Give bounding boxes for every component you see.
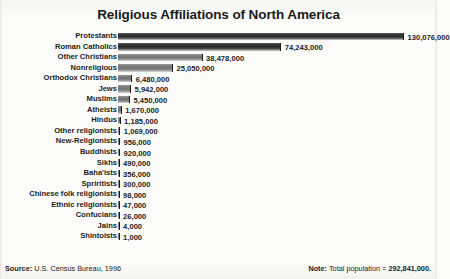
category-label: Nonreligious xyxy=(0,63,117,74)
category-label: Confucians xyxy=(0,210,117,221)
bar-track: 1,000 xyxy=(118,233,428,241)
category-label: Orthodox Christians xyxy=(0,73,117,84)
bar-track: 920,000 xyxy=(118,149,428,157)
category-label: Roman Catholics xyxy=(0,42,117,53)
bar-track: 4,000 xyxy=(118,222,428,230)
bar-row: Jews5,942,000 xyxy=(0,84,437,95)
bar-row: Atheists1,670,000 xyxy=(0,105,437,116)
note-value: 292,841,000. xyxy=(388,264,431,273)
category-label: Other Christians xyxy=(0,52,117,63)
bar-track: 130,076,000 xyxy=(118,33,428,41)
bar-track: 1,670,000 xyxy=(118,106,428,114)
bar-row: Other religionists1,069,000 xyxy=(0,126,437,137)
bar xyxy=(118,138,120,146)
category-label: Sikhs xyxy=(0,158,117,169)
bar-track: 356,000 xyxy=(118,170,428,178)
bar-row: New-Religionists956,000 xyxy=(0,136,437,147)
bar-track: 5,450,000 xyxy=(118,96,428,104)
bar xyxy=(118,149,120,157)
category-label: Spriritists xyxy=(0,179,117,190)
category-label: Muslims xyxy=(0,94,117,105)
bar xyxy=(118,54,203,62)
bar-row: Nonreligious25,050,000 xyxy=(0,63,437,74)
bar-track: 1,185,000 xyxy=(118,117,428,125)
bar xyxy=(118,201,120,209)
category-label: Protestants xyxy=(0,31,117,42)
bar-row: Jains4,000 xyxy=(0,221,437,232)
bar xyxy=(118,75,132,83)
bar xyxy=(118,222,120,230)
bar-row: Shintoists1,000 xyxy=(0,231,437,242)
source-text: U.S. Census Bureau, 1996 xyxy=(34,264,121,273)
bar-track: 300,000 xyxy=(118,180,428,188)
bar-track: 25,050,000 xyxy=(118,64,428,72)
bar-row: Muslims5,450,000 xyxy=(0,94,437,105)
category-label: Hindus xyxy=(0,115,117,126)
bar-row: Buddhists920,000 xyxy=(0,147,437,158)
bar xyxy=(118,180,120,188)
bar xyxy=(118,96,130,104)
bar xyxy=(118,106,122,114)
bar-track: 47,000 xyxy=(118,201,428,209)
bar-track: 956,000 xyxy=(118,138,428,146)
note-text: Total population = xyxy=(329,264,388,273)
category-label: New-Religionists xyxy=(0,136,117,147)
category-label: Atheists xyxy=(0,105,117,116)
bar-row: Chinese folk religionists98,000 xyxy=(0,189,437,200)
bar xyxy=(118,85,131,93)
value-label: 1,000 xyxy=(123,233,142,244)
bar-row: Other Christians38,478,000 xyxy=(0,52,437,63)
bar xyxy=(118,233,120,241)
category-label: Ethnic religionists xyxy=(0,200,117,211)
category-label: Chinese folk religionists xyxy=(0,189,117,200)
bar xyxy=(118,127,120,135)
bar-row: Hindus1,185,000 xyxy=(0,115,437,126)
bar-row: Orthodox Christians6,480,000 xyxy=(0,73,437,84)
bar-track: 26,000 xyxy=(118,212,428,220)
source-footnote: Source: U.S. Census Bureau, 1996 xyxy=(5,264,121,273)
bar-track: 490,000 xyxy=(118,159,428,167)
bar xyxy=(118,170,120,178)
bar-row: Baha'ists356,000 xyxy=(0,168,437,179)
bar-row: Sikhs490,000 xyxy=(0,158,437,169)
category-label: Shintoists xyxy=(0,231,117,242)
bar xyxy=(118,64,173,72)
chart-title: Religious Affiliations of North America xyxy=(0,7,437,22)
category-label: Other religionists xyxy=(0,126,117,137)
bar xyxy=(118,117,121,125)
source-label: Source: xyxy=(5,264,32,273)
bar-row: Confucians26,000 xyxy=(0,210,437,221)
bar-track: 5,942,000 xyxy=(118,85,428,93)
bar-row: Roman Catholics74,243,000 xyxy=(0,42,437,53)
bar xyxy=(118,212,120,220)
bar-row: Spriritists300,000 xyxy=(0,179,437,190)
bar-track: 1,069,000 xyxy=(118,127,428,135)
bar xyxy=(118,43,281,51)
bar xyxy=(118,33,404,41)
category-label: Jains xyxy=(0,221,117,232)
bar-track: 74,243,000 xyxy=(118,43,428,51)
note-footnote: Note: Total population = 292,841,000. xyxy=(308,264,431,273)
note-label: Note: xyxy=(308,264,327,273)
bar-track: 6,480,000 xyxy=(118,75,428,83)
bar xyxy=(118,159,120,167)
bar xyxy=(118,191,120,199)
bar-track: 38,478,000 xyxy=(118,54,428,62)
category-label: Baha'ists xyxy=(0,168,117,179)
category-label: Buddhists xyxy=(0,147,117,158)
bar-track: 98,000 xyxy=(118,191,428,199)
bar-row: Protestants130,076,000 xyxy=(0,31,437,42)
bar-chart-plot-area: Protestants130,076,000Roman Catholics74,… xyxy=(0,31,437,243)
bar-row: Ethnic religionists47,000 xyxy=(0,200,437,211)
category-label: Jews xyxy=(0,84,117,95)
